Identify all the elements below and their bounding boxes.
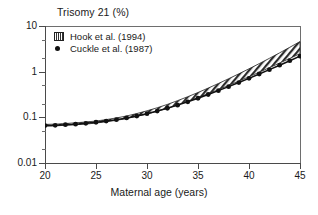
chart-legend: Hook et al. (1994) Cuckle et al. (1987)	[54, 31, 152, 55]
data-point-marker	[155, 109, 160, 114]
data-point-marker	[53, 123, 58, 128]
data-point-marker	[216, 88, 221, 93]
data-point-marker	[94, 120, 99, 125]
data-point-marker	[124, 116, 129, 121]
data-point-marker	[83, 121, 88, 126]
legend-label-cuckle: Cuckle et al. (1987)	[70, 43, 152, 54]
data-point-marker	[73, 122, 78, 127]
data-point-marker	[104, 119, 109, 124]
legend-item-hook: Hook et al. (1994)	[54, 31, 152, 42]
data-point-marker	[287, 58, 292, 63]
trisomy-21-chart-figure: Trisomy 21 (%) 1010.10.01 202530354045 H…	[0, 0, 318, 215]
data-point-marker	[114, 117, 119, 122]
data-point-marker	[257, 72, 262, 77]
data-point-marker	[206, 92, 211, 97]
legend-item-cuckle: Cuckle et al. (1987)	[54, 43, 152, 54]
data-point-marker	[134, 114, 139, 119]
data-point-marker	[267, 67, 272, 72]
hatched-square-icon	[54, 32, 67, 41]
legend-label-hook: Hook et al. (1994)	[70, 31, 146, 42]
data-point-marker	[145, 111, 150, 116]
data-point-marker	[63, 122, 68, 127]
chart-plot-area	[0, 0, 318, 215]
data-point-marker	[196, 96, 201, 101]
data-point-marker	[236, 80, 241, 85]
data-point-marker	[185, 99, 190, 104]
data-point-marker	[247, 76, 252, 81]
data-point-marker	[43, 123, 48, 128]
data-point-marker	[277, 63, 282, 68]
data-point-marker	[298, 54, 303, 59]
data-point-marker	[165, 106, 170, 111]
data-point-marker	[175, 103, 180, 108]
filled-circle-icon	[54, 46, 67, 51]
data-point-marker	[226, 84, 231, 89]
x-axis-title: Maternal age (years)	[0, 186, 318, 198]
